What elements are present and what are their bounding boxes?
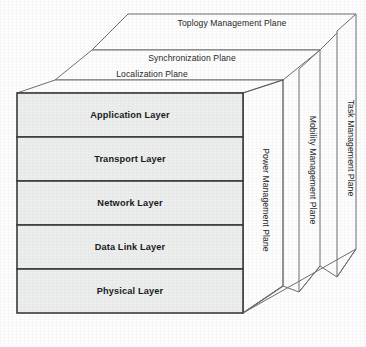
stack-layer-transport: Transport Layer: [17, 137, 243, 181]
stack-layer-datalink: Data Link Layer: [17, 225, 243, 269]
stack-layer-network: Network Layer: [17, 181, 243, 225]
diagram-canvas: Toplogy Management Plane Synchronization…: [0, 0, 366, 347]
stack-layer-application-label: Application Layer: [90, 110, 170, 120]
side-plane-task: Task Management Plane: [337, 14, 356, 277]
top-plane-synchronization-label: Synchronization Plane: [148, 53, 236, 63]
top-plane-topology-label: Toplogy Management Plane: [178, 18, 287, 28]
protocol-stack-cube: Toplogy Management Plane Synchronization…: [0, 0, 366, 347]
stack-layer-network-label: Network Layer: [97, 198, 163, 208]
side-plane-mobility: Mobility Management Plane: [299, 50, 320, 292]
top-plane-topology: Toplogy Management Plane: [92, 14, 356, 50]
protocol-stack-front-face: Application Layer Transport Layer Networ…: [17, 93, 243, 313]
side-plane-mobility-label: Mobility Management Plane: [308, 116, 318, 225]
stack-layer-physical-label: Physical Layer: [97, 286, 164, 296]
stack-layer-application: Application Layer: [17, 93, 243, 137]
side-plane-power: Power Management Plane: [243, 80, 283, 313]
side-plane-power-label: Power Management Plane: [261, 148, 271, 252]
stack-layer-datalink-label: Data Link Layer: [95, 242, 166, 252]
side-plane-task-label: Task Management Plane: [346, 100, 356, 197]
stack-layer-transport-label: Transport Layer: [94, 154, 166, 164]
stack-layer-physical: Physical Layer: [17, 269, 243, 313]
top-plane-localization-label: Localization Plane: [116, 69, 188, 79]
